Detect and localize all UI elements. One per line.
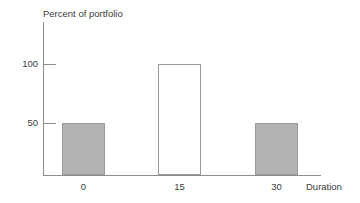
y-axis-line [43,22,44,176]
x-tick-label-15: 15 [158,181,201,192]
x-tick-label-0: 0 [62,181,105,192]
y-tick-label-50: 50 [27,118,38,128]
bar-duration-0 [62,123,105,175]
bar-duration-15 [158,64,201,175]
y-axis-title: Percent of portfolio [43,8,123,19]
bar-duration-30 [255,123,298,175]
y-tick-label-100: 100 [22,59,38,69]
x-axis-title: Duration [306,181,342,192]
x-tick-label-30: 30 [255,181,298,192]
bar-chart: Percent of portfolio 100 50 0 15 30 Dura… [0,0,360,203]
y-tick-mark-50 [44,123,56,124]
y-tick-mark-100 [44,64,56,65]
x-axis-line [43,175,321,176]
